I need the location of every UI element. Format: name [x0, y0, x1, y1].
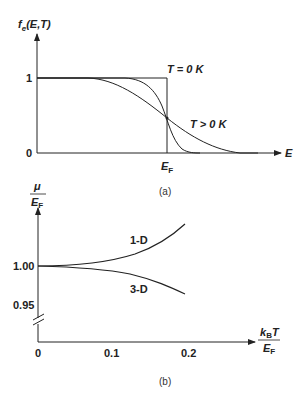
b-xtick-02: 0.2 [181, 347, 196, 359]
a-ytick-1: 1 [26, 72, 32, 84]
a-curve-tpos-high [37, 78, 258, 153]
b-y-label-den: EF [31, 196, 43, 210]
figure: fe(E,T) 1 0 E EF T = 0 K T > 0 K (a) μ E… [0, 0, 304, 397]
a-crossing-point [166, 117, 169, 120]
b-xtick-01: 0.1 [104, 347, 119, 359]
a-xtick-ef: EF [161, 160, 173, 175]
b-series-label-1d: 1-D [130, 234, 148, 246]
panel-b: μ EF 1.00 0.95 0 0.1 0.2 kBT EF 1-D 3-D … [13, 180, 280, 387]
b-x-label-num: kBT [260, 326, 280, 340]
a-annotation-tpos: T > 0 K [190, 118, 227, 130]
b-ytick-095: 0.95 [13, 299, 34, 311]
b-xtick-0: 0 [35, 347, 41, 359]
a-x-axis-label: E [285, 147, 293, 159]
b-curve-3d [38, 266, 185, 294]
a-curve-tpos-low [37, 78, 200, 153]
panel-a: fe(E,T) 1 0 E EF T = 0 K T > 0 K (a) [18, 18, 293, 197]
b-y-label-num: μ [33, 180, 41, 192]
b-ytick-100: 1.00 [13, 260, 34, 272]
a-annotation-t0: T = 0 K [167, 63, 204, 75]
a-curve-t0 [37, 78, 167, 153]
a-y-axis-label: fe(E,T) [18, 18, 51, 33]
b-series-label-3d: 3-D [130, 283, 148, 295]
b-x-label-den: EF [263, 342, 275, 356]
b-curve-1d [38, 224, 185, 266]
a-ytick-0: 0 [26, 147, 32, 159]
a-caption: (a) [159, 186, 171, 197]
b-caption: (b) [159, 376, 171, 387]
